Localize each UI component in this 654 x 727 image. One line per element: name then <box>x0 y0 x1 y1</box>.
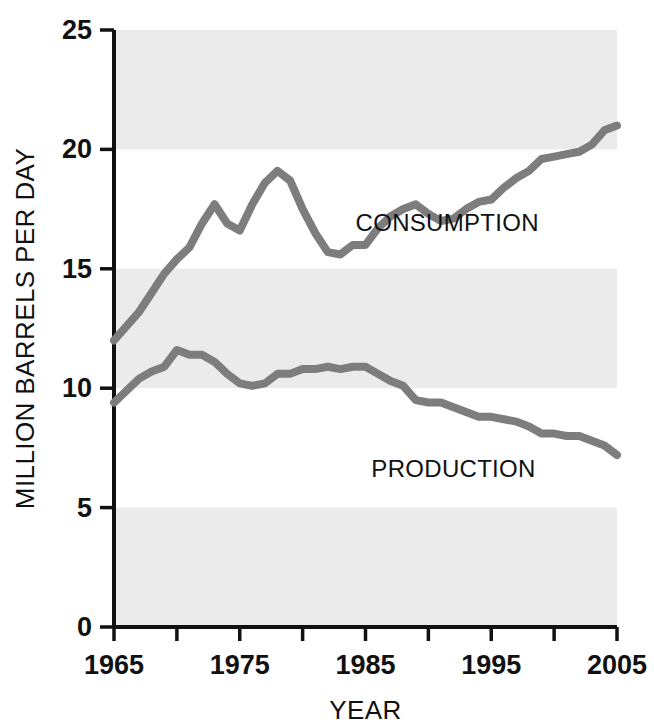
oil-production-consumption-chart: 0510152025 19651975198519952005 CONSUMPT… <box>0 0 654 727</box>
x-tick-label: 2005 <box>587 650 647 680</box>
x-axis-ticks <box>114 627 617 641</box>
x-axis-title: YEAR <box>329 695 401 725</box>
y-axis-ticks <box>100 30 114 627</box>
y-tick-label: 15 <box>62 254 92 284</box>
series-label-production: PRODUCTION <box>371 455 535 482</box>
y-tick-label: 5 <box>77 493 92 523</box>
x-axis-tick-labels: 19651975198519952005 <box>84 650 647 680</box>
background-band <box>114 508 617 627</box>
chart-canvas: 0510152025 19651975198519952005 CONSUMPT… <box>0 0 654 727</box>
background-band <box>114 30 617 149</box>
background-bands <box>114 30 617 627</box>
y-tick-label: 10 <box>62 373 92 403</box>
x-tick-label: 1995 <box>461 650 521 680</box>
x-tick-label: 1965 <box>84 650 144 680</box>
x-tick-label: 1975 <box>210 650 270 680</box>
y-axis-title: MILLION BARRELS PER DAY <box>10 148 40 509</box>
y-tick-label: 25 <box>62 15 92 45</box>
y-tick-label: 20 <box>62 134 92 164</box>
series-label-consumption: CONSUMPTION <box>356 209 539 236</box>
x-tick-label: 1985 <box>335 650 395 680</box>
y-axis-tick-labels: 0510152025 <box>62 15 92 642</box>
y-tick-label: 0 <box>77 612 92 642</box>
